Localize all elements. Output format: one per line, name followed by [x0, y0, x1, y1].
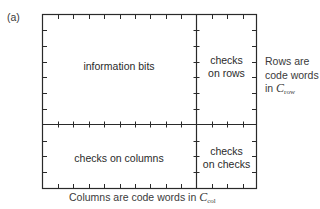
- c-col-subscript: col: [207, 197, 216, 205]
- c-col-symbol: C: [199, 190, 207, 204]
- checks-on-rows-line2: on rows: [196, 67, 257, 80]
- row-caption-line1: Rows are: [265, 55, 319, 69]
- product-code-grid: [0, 0, 320, 209]
- checks-on-checks-line2: on checks: [196, 158, 257, 171]
- row-caption-prefix: in: [265, 82, 276, 94]
- region-information-bits: information bits: [42, 60, 196, 73]
- c-row-subscript: row: [284, 88, 295, 96]
- column-caption-prefix: Columns are code words in: [69, 191, 199, 203]
- checks-on-checks-line1: checks: [196, 145, 257, 158]
- row-caption-line2: code words: [265, 69, 319, 83]
- checks-on-rows-line1: checks: [196, 54, 257, 67]
- c-row-symbol: C: [276, 81, 284, 95]
- region-checks-on-checks: checks on checks: [196, 145, 257, 171]
- information-bits-label: information bits: [83, 60, 154, 72]
- column-caption: Columns are code words in Ccol: [69, 191, 216, 209]
- region-checks-on-rows: checks on rows: [196, 54, 257, 80]
- checks-on-columns-label: checks on columns: [74, 152, 163, 164]
- row-caption-line3: in Crow: [265, 82, 319, 100]
- row-caption: Rows are code words in Crow: [265, 55, 319, 100]
- region-checks-on-columns: checks on columns: [42, 152, 196, 165]
